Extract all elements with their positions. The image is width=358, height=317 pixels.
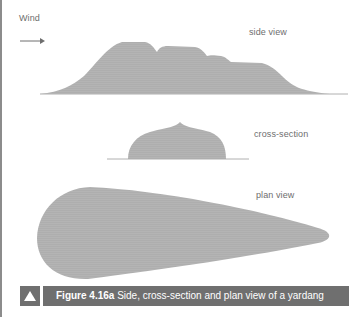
caption-text: Figure 4.16a Side, cross-section and pla… (43, 286, 349, 306)
figure-caption: Figure 4.16a Side, cross-section and pla… (20, 286, 349, 306)
wind-arrow-icon (20, 38, 45, 44)
cross-section-profile (107, 122, 249, 159)
plan-view-outline (37, 187, 329, 279)
yardang-diagram (0, 0, 358, 317)
side-view-profile (40, 42, 348, 94)
triangle-up-icon (24, 291, 36, 301)
caption-description: Side, cross-section and plan view of a y… (114, 290, 324, 301)
caption-icon-box (20, 286, 40, 306)
figure-number: Figure 4.16a (56, 290, 114, 301)
